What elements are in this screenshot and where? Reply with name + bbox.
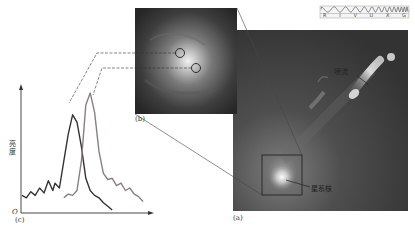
band-tick-r: R <box>323 13 326 18</box>
panel-a-label: (a) <box>233 214 243 222</box>
x-axis-arrow-icon <box>148 211 154 215</box>
y-axis-label: 亮度 <box>7 140 17 156</box>
y-axis-arrow-icon <box>19 84 23 90</box>
band-tick-u: U <box>370 13 374 18</box>
band-tick-v: V <box>353 13 356 18</box>
panel-b-label: (b) <box>135 115 145 123</box>
band-tick-g: G <box>402 13 406 18</box>
jet-label: 喷流 <box>334 66 348 76</box>
figure-canvas <box>0 0 415 229</box>
curve-light <box>64 93 143 202</box>
nucleus-label: 星系核 <box>311 183 332 193</box>
panel-b-image <box>135 8 237 114</box>
panel-c-chart <box>19 84 154 215</box>
galaxy-core <box>268 163 296 191</box>
band-tick-i: I <box>339 13 340 18</box>
origin-label: O <box>12 208 18 216</box>
panel-c-label: (c) <box>15 216 24 224</box>
spectrum-band-ticks: R I V U X G <box>320 13 409 18</box>
band-tick-x: X <box>386 13 389 18</box>
